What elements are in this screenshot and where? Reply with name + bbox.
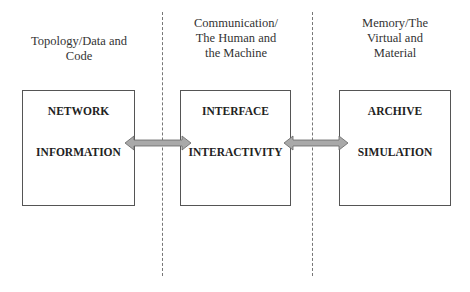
double-arrow-icon [124,135,192,151]
column-heading-3: Memory/The Virtual and Material [330,16,460,61]
heading-line: Code [0,49,158,64]
heading-line: Virtual and [330,31,460,46]
heading-line: Topology/Data and [0,34,158,49]
box-label-top: INTERFACE [181,105,290,117]
box-label-bottom: INTERACTIVITY [181,146,290,158]
heading-line: the Machine [166,46,306,61]
box-label-bottom: SIMULATION [340,146,450,158]
box-interface-interactivity: INTERFACE INTERACTIVITY [180,90,291,206]
column-heading-2: Communication/ The Human and the Machine [166,16,306,61]
column-heading-1: Topology/Data and Code [0,34,158,64]
heading-line: Memory/The [330,16,460,31]
box-network-information: NETWORK INFORMATION [22,90,135,206]
box-label-top: NETWORK [23,105,134,117]
heading-line: The Human and [166,31,306,46]
double-arrow-icon [283,135,349,151]
heading-line: Communication/ [166,16,306,31]
box-archive-simulation: ARCHIVE SIMULATION [339,90,451,206]
heading-line: Material [330,46,460,61]
box-label-bottom: INFORMATION [23,146,134,158]
box-label-top: ARCHIVE [340,105,450,117]
